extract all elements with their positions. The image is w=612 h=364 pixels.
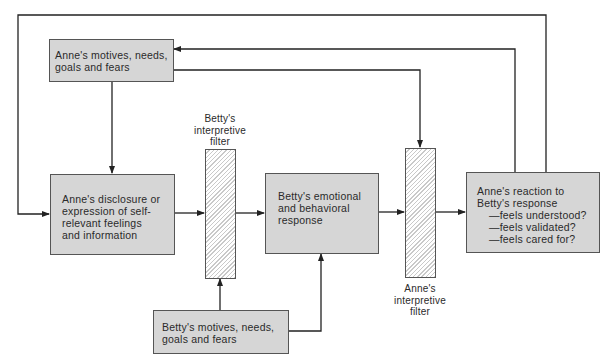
label-text: filter: [380, 306, 460, 318]
node-text: goals and fears: [55, 61, 168, 73]
anne-filter-label: Anne's interpretive filter: [380, 283, 460, 318]
node-anne-reaction: Anne's reaction to Betty's response —fee…: [466, 172, 600, 253]
node-text: Betty's emotional: [278, 190, 361, 202]
node-anne-disclosure: Anne's disclosure or expression of self-…: [50, 174, 175, 255]
reaction-item: —feels cared for?: [477, 233, 587, 245]
anne-interpretive-filter: [405, 148, 436, 278]
node-text: goals and fears: [162, 333, 274, 345]
edge-betty-motives-to-response: [288, 254, 321, 331]
betty-interpretive-filter: [205, 149, 236, 279]
node-anne-motives: Anne's motives, needs, goals and fears: [49, 39, 174, 82]
node-betty-response: Betty's emotional and behavioral respons…: [265, 173, 379, 254]
reaction-item: —feels validated?: [477, 221, 587, 233]
node-text: and information: [62, 229, 160, 241]
node-text: Anne's motives, needs,: [55, 49, 168, 61]
node-text: Anne's disclosure or: [62, 193, 160, 205]
node-betty-motives: Betty's motives, needs, goals and fears: [153, 310, 289, 354]
node-text: and behavioral: [278, 202, 361, 214]
label-text: interpretive: [380, 295, 460, 307]
label-text: filter: [180, 136, 260, 148]
label-text: Anne's: [380, 283, 460, 295]
node-text: Betty's response: [477, 197, 587, 209]
reaction-item: —feels understood?: [477, 209, 587, 221]
node-text: Betty's motives, needs,: [162, 321, 274, 333]
node-text: expression of self-: [62, 205, 160, 217]
label-text: interpretive: [180, 125, 260, 137]
node-text: relevant feelings: [62, 217, 160, 229]
betty-filter-label: Betty's interpretive filter: [180, 113, 260, 148]
node-text: Anne's reaction to: [477, 185, 587, 197]
node-text: response: [278, 214, 361, 226]
label-text: Betty's: [180, 113, 260, 125]
